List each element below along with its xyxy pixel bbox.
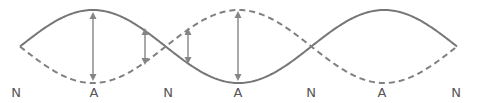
arrowhead-down-icon <box>235 74 242 81</box>
antinode-label-1: A <box>90 86 99 99</box>
double-arrow-4 <box>235 11 242 81</box>
arrowhead-down-icon <box>90 74 97 81</box>
node-label-3: N <box>306 86 316 99</box>
double-arrow-2 <box>142 28 149 65</box>
node-label-1: N <box>11 86 21 99</box>
arrowhead-up-icon <box>90 12 97 19</box>
node-label-4: N <box>451 86 461 99</box>
standing-wave-diagram: N A N A N A N <box>0 0 477 103</box>
double-arrow-3 <box>185 28 192 64</box>
arrowhead-up-icon <box>235 11 242 18</box>
antinode-label-3: A <box>378 86 387 99</box>
antinode-label-2: A <box>234 86 243 99</box>
double-arrow-1 <box>90 12 97 81</box>
node-label-2: N <box>163 86 173 99</box>
